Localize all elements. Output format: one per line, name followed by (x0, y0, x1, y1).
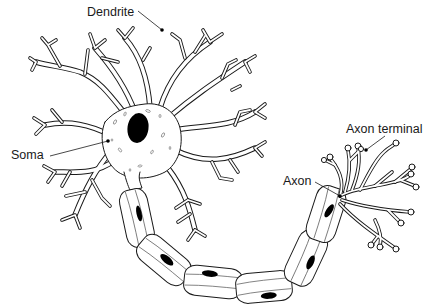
dendrite-leader (138, 11, 162, 30)
soma-leader (50, 141, 108, 156)
soma-label: Soma (11, 149, 44, 162)
axon-terminal-leader (366, 136, 385, 150)
axon-hillock (124, 172, 142, 190)
soma (102, 104, 181, 178)
myelin-sheath (117, 183, 349, 305)
axon-label: Axon (283, 175, 312, 188)
axon-terminal-label: Axon terminal (346, 123, 422, 136)
dendrite-label: Dendrite (87, 6, 134, 19)
neuron-diagram (0, 0, 441, 306)
myelin-segment (183, 264, 244, 300)
